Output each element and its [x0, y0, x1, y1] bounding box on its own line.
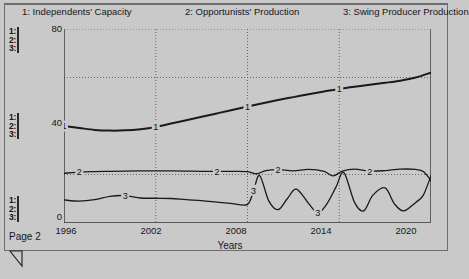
legend-entry-independents-capacity: 1: Independents' Capacity [22, 6, 132, 17]
legend-entry-swing-producer-production: 3: Swing Producer Production [343, 6, 469, 17]
series-inline-label-2: 2 [77, 167, 82, 177]
x-axis-title: Years [185, 240, 275, 251]
series-inline-label-2: 2 [276, 165, 281, 175]
chart-svg: 11112222333 [64, 29, 431, 223]
legend-entry-opportunists-production: 2: Opportunists' Production [185, 6, 299, 17]
series-inline-label-3: 3 [123, 191, 128, 201]
y-tick-label-40: 40 [40, 118, 62, 128]
chart-legend: 1: Independents' Capacity 2: Opportunist… [22, 4, 442, 18]
corner-fold-icon[interactable] [9, 250, 25, 268]
chart-plot-area: 11112222333 [64, 29, 431, 223]
y-tick-label-0: 0 [40, 212, 62, 222]
series-inline-label-1: 1 [64, 121, 67, 131]
x-tick-label-2014: 2014 [301, 226, 341, 236]
series-selector-3[interactable]: 3: [9, 44, 16, 53]
x-tick-label-1996: 1996 [46, 226, 86, 236]
selector-bracket-icon [17, 27, 19, 53]
page-number-label: Page 2 [9, 231, 41, 242]
series-selector-3[interactable]: 3: [9, 130, 16, 139]
series-selector-labels: 1: 2: 3: [9, 27, 16, 53]
series-inline-label-2: 2 [367, 167, 372, 177]
series-selector-labels: 1: 2: 3: [9, 113, 16, 139]
x-tick-label-2020: 2020 [386, 226, 426, 236]
x-tick-label-2002: 2002 [131, 226, 171, 236]
series-selector-group-middle[interactable]: 1: 2: 3: [9, 113, 35, 139]
selector-bracket-icon [17, 196, 19, 222]
series-inline-label-3: 3 [251, 186, 256, 196]
series-selector-group-bottom[interactable]: 1: 2: 3: [9, 196, 35, 222]
series-selector-group-top[interactable]: 1: 2: 3: [9, 27, 35, 53]
series-selector-3[interactable]: 3: [9, 213, 16, 222]
series-inline-label-1: 1 [337, 84, 342, 94]
series-inline-label-2: 2 [214, 167, 219, 177]
series-selector-labels: 1: 2: 3: [9, 196, 16, 222]
series-inline-label-1: 1 [153, 122, 158, 132]
selector-bracket-icon [17, 113, 19, 139]
series-inline-label-1: 1 [245, 102, 250, 112]
x-tick-label-2008: 2008 [216, 226, 256, 236]
y-tick-label-80: 80 [40, 24, 62, 34]
series-inline-label-3: 3 [315, 208, 320, 218]
